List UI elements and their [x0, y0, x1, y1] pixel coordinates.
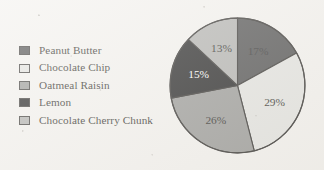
- chart-legend: Peanut Butter Chocolate Chip Oatmeal Rai…: [19, 42, 171, 129]
- pie-data-label: 26%: [205, 114, 226, 126]
- legend-item-label: Lemon: [39, 97, 71, 108]
- legend-swatch-icon: [19, 116, 30, 125]
- legend-swatch-icon: [19, 81, 30, 90]
- legend-swatch-icon: [19, 64, 30, 73]
- legend-item-chocolate-chip: Chocolate Chip: [19, 59, 171, 76]
- legend-item-oatmeal-raisin: Oatmeal Raisin: [19, 77, 171, 94]
- legend-item-label: Peanut Butter: [39, 45, 102, 56]
- pie-chart-figure: Peanut Butter Chocolate Chip Oatmeal Rai…: [0, 0, 324, 170]
- legend-item-label: Oatmeal Raisin: [39, 80, 110, 91]
- pie-svg: 17%29%26%15%13%: [169, 17, 306, 154]
- legend-item-chocolate-cherry-chunk: Chocolate Cherry Chunk: [19, 112, 171, 129]
- pie-data-label: 13%: [211, 42, 232, 54]
- pie-graphic: 17%29%26%15%13%: [169, 17, 306, 154]
- legend-item-label: Chocolate Cherry Chunk: [39, 115, 153, 126]
- legend-swatch-icon: [19, 46, 30, 55]
- legend-swatch-icon: [19, 98, 30, 107]
- legend-item-lemon: Lemon: [19, 94, 171, 111]
- pie-data-label: 29%: [264, 96, 285, 108]
- pie-data-label: 17%: [248, 45, 269, 57]
- legend-item-label: Chocolate Chip: [39, 62, 110, 73]
- pie-data-label: 15%: [188, 68, 209, 80]
- pie-slice-group: [170, 18, 305, 153]
- legend-item-peanut-butter: Peanut Butter: [19, 42, 171, 59]
